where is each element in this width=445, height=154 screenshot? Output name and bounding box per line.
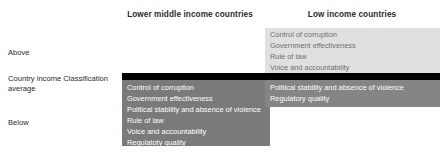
list-item: Voice and accountability (265, 62, 440, 73)
list-item: Control of corruption (122, 82, 270, 93)
list-item: Political stability and absence of viole… (265, 82, 440, 93)
row-label-above: Above (8, 48, 30, 58)
list-item: Regulatory quality (265, 93, 440, 104)
column-header-lower-middle-income: Lower middle income countries (110, 10, 270, 19)
block-low-income-below: Political stability and absence of viole… (265, 80, 440, 107)
row-label-below: Below (8, 118, 29, 128)
governance-indicator-matrix: Lower middle income countries Low income… (0, 0, 445, 154)
list-item: Rule of law (122, 115, 270, 126)
row-label-country-income-classification-average: Country income Classification average (8, 74, 120, 94)
list-item: Control of corruption (265, 29, 440, 40)
list-item: Voice and accountability (122, 126, 270, 137)
indicator-list-low-income-below: Political stability and absence of viole… (265, 82, 440, 104)
indicator-list-low-income-above: Control of corruption Government effecti… (265, 29, 440, 73)
indicator-list-lower-middle-income-below: Control of corruption Government effecti… (122, 82, 270, 149)
list-item: Rule of law (265, 51, 440, 62)
column-header-low-income: Low income countries (272, 10, 432, 19)
average-divider-bar (122, 73, 440, 80)
list-item: Regulatoty quality (122, 137, 270, 148)
list-item: Government effectiveness (265, 40, 440, 51)
list-item: Political stability and absence of viole… (122, 104, 270, 115)
block-low-income-above: Control of corruption Government effecti… (265, 28, 440, 73)
list-item: Government effectiveness (122, 93, 270, 104)
block-lower-middle-income-below: Control of corruption Government effecti… (122, 80, 270, 146)
